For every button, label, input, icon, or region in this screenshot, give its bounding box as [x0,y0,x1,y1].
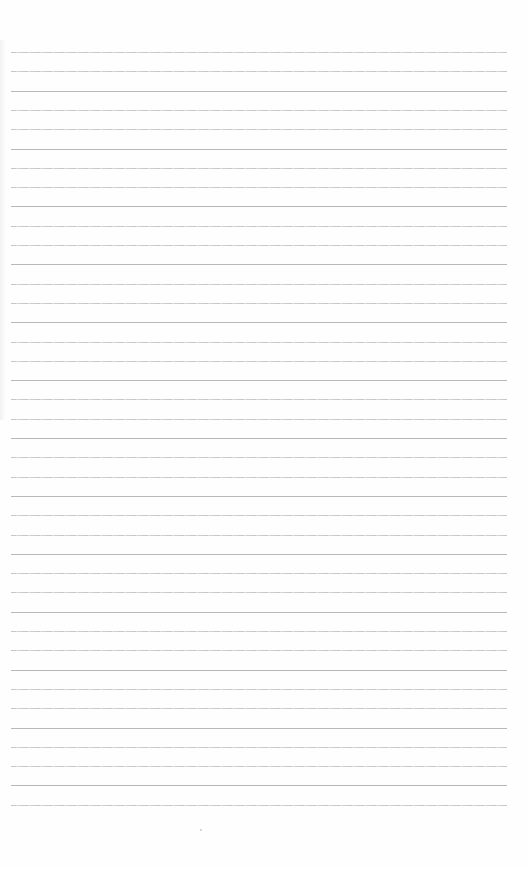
ruled-line [11,226,507,227]
ruled-line [11,110,507,111]
ruled-line [11,535,507,536]
ruled-line [11,612,507,613]
ruled-paper-page [0,0,529,869]
ruled-line [11,149,507,150]
ruled-line [11,573,507,574]
ruled-line [11,361,507,362]
ruled-line [11,284,507,285]
ruled-line [11,187,507,188]
ruled-line [11,670,507,671]
ruled-line [11,264,507,265]
ruled-line [11,650,507,651]
ruled-line [11,399,507,400]
ruled-line [11,322,507,323]
ruled-line [11,496,507,497]
ruled-line [11,52,507,53]
ruled-line [11,689,507,690]
page-edge-shadow [0,40,6,420]
ruled-line [11,805,507,806]
ruled-line [11,419,507,420]
ruled-line [11,477,507,478]
ruled-line [11,380,507,381]
page-mark-dot [200,829,202,831]
ruled-line [11,766,507,767]
ruled-line [11,631,507,632]
ruled-line [11,785,507,786]
ruled-line [11,708,507,709]
ruled-line [11,129,507,130]
ruled-line [11,245,507,246]
ruled-line [11,515,507,516]
ruled-line [11,592,507,593]
ruled-line [11,206,507,207]
ruled-line [11,554,507,555]
ruled-line [11,747,507,748]
ruled-line [11,168,507,169]
ruled-line [11,728,507,729]
ruled-line [11,71,507,72]
ruled-line [11,91,507,92]
ruled-line [11,438,507,439]
ruled-line [11,303,507,304]
ruled-line [11,342,507,343]
ruled-line [11,457,507,458]
